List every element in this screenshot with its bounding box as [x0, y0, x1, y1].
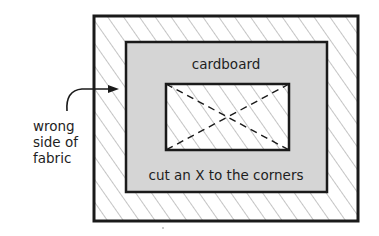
fabric-cardboard-diagram: cardboard cut an X to the corners wrong …	[0, 0, 379, 236]
window-opening	[166, 84, 289, 150]
instruction-label: cut an X to the corners	[149, 167, 304, 183]
cardboard-label: cardboard	[192, 56, 261, 72]
stray-dot	[162, 227, 164, 229]
fabric-label-line-1: wrong	[33, 118, 75, 134]
fabric-label-line-3: fabric	[33, 150, 71, 166]
fabric-label-line-2: side of	[33, 134, 79, 150]
